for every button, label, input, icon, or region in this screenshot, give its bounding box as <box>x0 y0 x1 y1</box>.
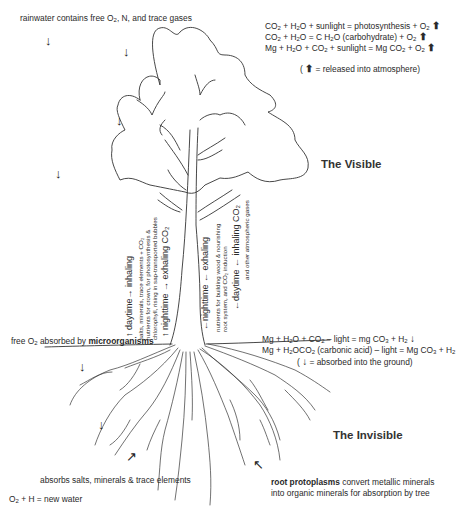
equation-mg-co3-light: Mg + H2O + CO2 – light = mg CO3 + H2 ↓ <box>262 334 415 345</box>
legend-absorbed: ( ↓ = absorbed into the ground) <box>297 357 413 368</box>
trunk-left-nutrients-text: salts, minerals, trace elements + CO₂ nu… <box>137 217 158 340</box>
released-up-arrow-icon: ⬆ <box>427 42 435 53</box>
equation-carbonic-acid: Mg + H2OCO2 (carbonic acid) – light = Mg… <box>262 345 455 356</box>
released-up-arrow-icon: ⬆ <box>305 63 313 74</box>
absorb-diagonal-arrow-icon: ↗ <box>126 450 137 463</box>
equation-magnesium-sunlight: Mg + H2O + CO2 + sunlight = Mg CO2 + O2 … <box>265 42 435 54</box>
legend-released: ( ⬆ = released into atmosphere) <box>300 63 420 75</box>
rain-down-arrow-icon: ↓ <box>123 45 130 58</box>
trunk-left-daytime-inhaling: ↑ daytime→ inhaling <box>124 256 134 337</box>
released-up-arrow-icon: ⬆ <box>419 31 427 42</box>
trunk-right-atmospheric-gases: and other atmospheric gases <box>243 200 250 280</box>
new-water-label: O2 + H = new water <box>9 494 82 505</box>
soil-down-arrow-icon: ↓ <box>98 418 105 431</box>
trunk-right-nutrients-text: nutrients for building wood & nourishing… <box>214 224 228 332</box>
soil-down-arrow-icon: ↓ <box>79 360 86 373</box>
trunk-left-nighttime-exhaling: ↑ nighttime → exhaling CO₂ <box>160 226 170 337</box>
root-protoplasms-label: root protoplasms convert metallic minera… <box>271 477 434 498</box>
trunk-right-daytime-inhaling: ←daytime ← inhaling CO₂ <box>231 205 241 310</box>
rain-down-arrow-icon: ↓ <box>116 114 123 127</box>
rain-down-arrow-icon: ↓ <box>55 167 62 180</box>
protoplasm-diagonal-arrow-icon: ↖ <box>253 458 264 471</box>
rainwater-label: rainwater contains free O2, N, and trace… <box>20 13 192 24</box>
trunk-right-nighttime-exhaling: ←nighttime ← exhaling <box>200 237 210 330</box>
rain-down-arrow-icon: ↓ <box>45 34 52 47</box>
title-the-visible: The Visible <box>321 158 382 170</box>
absorbed-down-arrow-icon: ↓ <box>410 333 415 344</box>
released-up-arrow-icon: ⬆ <box>432 20 440 31</box>
microorganisms-label: free O2 absorbed by microorganisms <box>11 336 154 347</box>
title-the-invisible: The Invisible <box>333 429 403 441</box>
absorbs-salts-label: absorbs salts, minerals & trace elements <box>40 475 191 486</box>
